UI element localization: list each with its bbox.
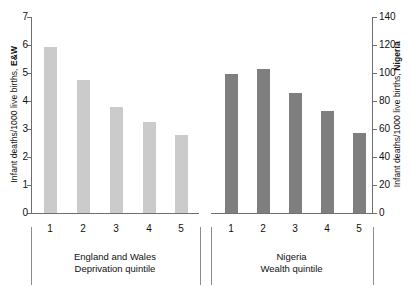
left-tick-label-7: 7 [16,12,28,22]
right-tick-label-60: 60 [379,124,390,134]
right-tick-140 [373,17,377,18]
ew-bar-4 [143,122,156,213]
right-tick-label-40: 40 [379,152,390,162]
right-tick-label-80: 80 [379,96,390,106]
left-tick-label-4: 4 [16,96,28,106]
right-tick-0 [373,213,377,214]
nigeria-bar-5 [353,133,366,213]
right-tick-60 [373,129,377,130]
right-tick-40 [373,157,377,158]
left-tick-label-1: 1 [16,180,28,190]
right-tick-label-120: 120 [379,40,396,50]
ew-bar-5 [175,135,188,213]
ew-group-label: England and Wales [31,251,199,263]
nigeria-group-label: Nigeria [211,251,372,263]
right-tick-120 [373,45,377,46]
left-tick-label-2: 2 [16,152,28,162]
right-tick-100 [373,73,377,74]
right-tick-20 [373,185,377,186]
plot-area: 012345670204060801001201401234512345Engl… [0,0,411,289]
left-tick-label-5: 5 [16,68,28,78]
ew-group-sublabel: Deprivation quintile [31,263,199,275]
nigeria-bar-2 [257,69,270,213]
infant-mortality-bar-chart: Infant deaths/1000 live births, E&W Infa… [0,0,411,289]
ew-bar-3 [110,107,123,213]
right-axis-line [372,17,373,213]
right-tick-label-140: 140 [379,12,396,22]
ew-bar-1 [44,47,57,213]
right-tick-label-20: 20 [379,180,390,190]
nigeria-bar-1 [225,74,238,213]
left-tick-label-0: 0 [16,208,28,218]
nigeria-bar-4 [321,111,334,213]
ew-group-caption: England and WalesDeprivation quintile [31,251,199,274]
baseline-segment-1 [31,213,199,214]
right-tick-label-0: 0 [379,208,385,218]
right-tick-label-100: 100 [379,68,396,78]
nigeria-group-sublabel: Wealth quintile [211,263,372,275]
ew-bar-2 [77,80,90,213]
nigeria-bar-3 [289,93,302,213]
baseline-segment-2 [211,213,373,214]
left-tick-label-3: 3 [16,124,28,134]
nigeria-group-caption: NigeriaWealth quintile [211,251,372,274]
left-axis-line [31,17,32,213]
left-tick-label-6: 6 [16,40,28,50]
right-tick-80 [373,101,377,102]
